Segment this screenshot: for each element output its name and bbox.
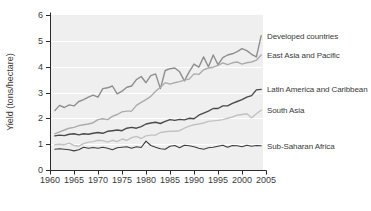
x-tick-label: 1970 bbox=[88, 175, 108, 185]
chart-figure: Yield (tons/hectare) 0123456196019651970… bbox=[0, 0, 371, 211]
y-tick-label: 6 bbox=[38, 10, 43, 20]
x-tick-label: 1975 bbox=[112, 175, 132, 185]
series-label-developed-countries: Developed countries bbox=[267, 32, 338, 41]
x-tick-label: 1990 bbox=[184, 175, 204, 185]
y-tick-label: 1 bbox=[38, 139, 43, 149]
y-tick-label: 3 bbox=[38, 88, 43, 98]
series-label-south-asia: South Asia bbox=[267, 106, 305, 115]
x-tick-label: 1995 bbox=[208, 175, 228, 185]
x-tick-label: 1985 bbox=[160, 175, 180, 185]
x-tick-label: 1980 bbox=[136, 175, 156, 185]
yield-line-chart: 0123456196019651970197519801985199019952… bbox=[0, 0, 371, 211]
y-tick-label: 4 bbox=[38, 62, 43, 72]
x-tick-label: 1965 bbox=[64, 175, 84, 185]
x-tick-label: 2000 bbox=[232, 175, 252, 185]
x-tick-label: 1960 bbox=[40, 175, 60, 185]
series-label-sub-saharan-africa: Sub-Saharan Africa bbox=[267, 142, 335, 151]
series-label-latin-america-and-caribbean: Latin America and Caribbean bbox=[267, 85, 367, 94]
y-tick-label: 5 bbox=[38, 36, 43, 46]
plot-area bbox=[50, 15, 263, 170]
series-label-east-asia-and-pacific: East Asia and Pacific bbox=[267, 51, 340, 60]
y-tick-label: 2 bbox=[38, 113, 43, 123]
x-tick-label: 2005 bbox=[256, 175, 276, 185]
y-tick-label: 0 bbox=[38, 165, 43, 175]
